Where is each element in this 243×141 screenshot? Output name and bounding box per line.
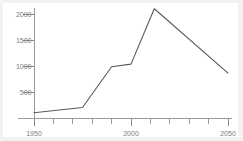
y-axis-tick-label: 1500 xyxy=(16,37,32,44)
series-line xyxy=(34,9,228,113)
y-axis: 500100015002000 xyxy=(16,8,34,119)
y-axis-tick-label: 1000 xyxy=(16,63,32,70)
x-axis-tick-label: 2050 xyxy=(220,130,236,137)
y-axis-tick-label: 2000 xyxy=(16,11,32,18)
x-axis: 195020002050 xyxy=(18,119,236,137)
line-chart: 500100015002000 195020002050 xyxy=(0,0,243,141)
plot-area: 500100015002000 195020002050 xyxy=(0,0,243,141)
data-series xyxy=(34,9,228,113)
y-axis-tick-label: 500 xyxy=(20,89,32,96)
x-axis-tick-label: 2000 xyxy=(123,130,139,137)
x-axis-tick-label: 1950 xyxy=(26,130,42,137)
